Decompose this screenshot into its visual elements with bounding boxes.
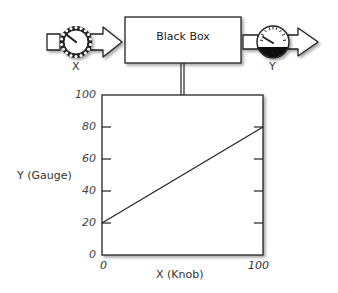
x-tick-label-min: 0 xyxy=(100,259,107,272)
gauge-icon xyxy=(257,26,289,58)
y-tick-label: 60 xyxy=(72,152,96,165)
x-tick-label-max: 100 xyxy=(248,259,269,272)
y-tick-label: 80 xyxy=(72,120,96,133)
y-tick-label: 20 xyxy=(72,216,96,229)
x-axis-label: X (Knob) xyxy=(156,268,204,281)
y-axis-label: Y (Gauge) xyxy=(17,169,72,182)
knob-icon xyxy=(60,26,92,58)
input-label: X xyxy=(72,60,80,73)
chart-plot-area xyxy=(102,95,263,255)
box-to-chart-connector xyxy=(181,63,184,95)
output-label: Y xyxy=(269,60,276,73)
y-tick-label: 40 xyxy=(72,184,96,197)
black-box-label: Black Box xyxy=(125,30,241,43)
y-tick-label: 100 xyxy=(72,88,96,101)
y-tick-label: 0 xyxy=(72,248,96,261)
diagram-canvas xyxy=(0,0,338,293)
